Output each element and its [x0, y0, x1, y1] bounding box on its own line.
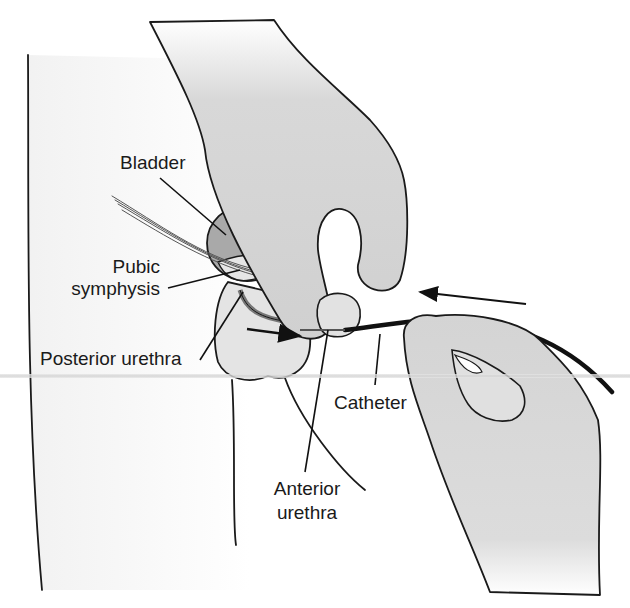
anterior-urethra-label-line2: urethra: [262, 502, 352, 524]
posterior-urethra-label: Posterior urethra: [40, 348, 182, 370]
insertion-direction-arrow: [420, 292, 526, 304]
bladder-label: Bladder: [120, 152, 186, 174]
anterior-urethra-label-line1: Anterior: [262, 478, 352, 500]
catheter-label: Catheter: [334, 392, 407, 414]
scan-band-divider: [0, 374, 630, 378]
pubic-symphysis-label-line1: Pubic: [88, 256, 160, 278]
pubic-symphysis-label-line2: symphysis: [60, 278, 160, 300]
